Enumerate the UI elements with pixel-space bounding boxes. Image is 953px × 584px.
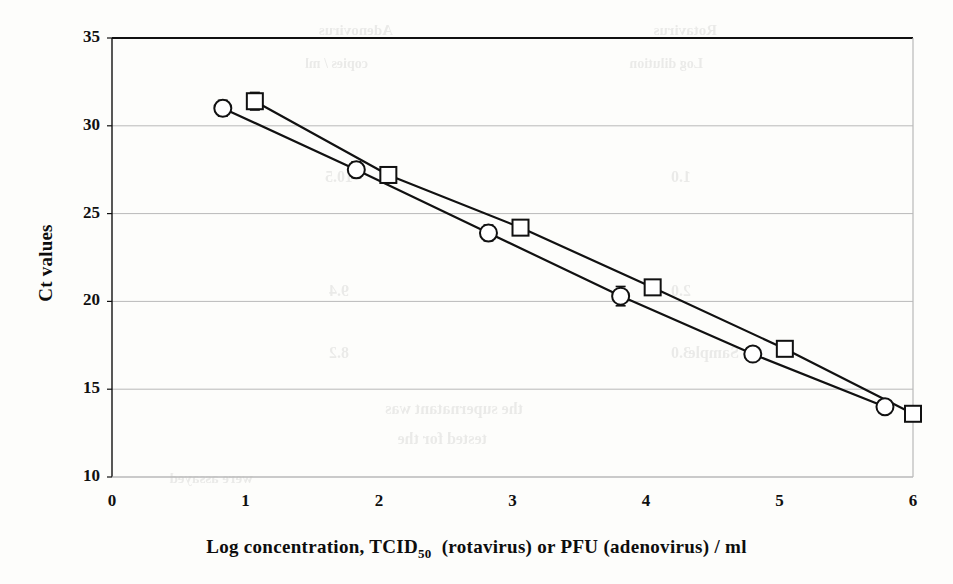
y-axis-title: Ct values [35, 193, 57, 333]
x-axis-tick-label: 6 [893, 491, 933, 511]
y-axis-tick-label: 15 [54, 378, 100, 398]
x-axis-title-subscript: 50 [418, 546, 432, 561]
x-axis-tick-label: 3 [493, 491, 533, 511]
y-axis-tick-label: 30 [54, 115, 100, 135]
x-axis-tick-label: 5 [760, 491, 800, 511]
y-axis-tick-label: 20 [54, 290, 100, 310]
gridlines [112, 126, 913, 477]
chart-figure: RotavirusAdenovirusLog dilutioncopies / … [0, 0, 953, 584]
y-axis-tick-label: 25 [54, 203, 100, 223]
x-axis-title-lead: Log concentration, TCID [206, 536, 418, 557]
x-axis-tick-label: 2 [359, 491, 399, 511]
plot-canvas [0, 0, 953, 584]
x-axis-tick-label: 1 [226, 491, 266, 511]
x-axis-title-tail: (rotavirus) or PFU (adenovirus) / ml [437, 536, 747, 557]
series-lines [223, 101, 913, 414]
x-axis-tick-label: 0 [92, 491, 132, 511]
y-axis-tick-label: 10 [54, 466, 100, 486]
series-markers [214, 92, 921, 421]
x-axis-title: Log concentration, TCID50 (rotavirus) or… [0, 536, 953, 562]
y-axis-tick-label: 35 [54, 27, 100, 47]
x-axis-tick-label: 4 [626, 491, 666, 511]
